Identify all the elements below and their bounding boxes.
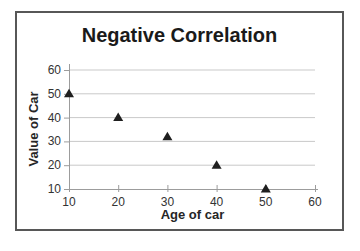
data-point-marker xyxy=(64,89,74,98)
y-tick-label: 30 xyxy=(48,134,62,148)
chart-figure: Negative Correlation Value of Car 102030… xyxy=(0,0,360,251)
y-tick-label: 40 xyxy=(48,111,62,125)
data-point-marker xyxy=(162,132,172,141)
y-tick-label: 10 xyxy=(48,182,62,196)
y-tick-label: 60 xyxy=(48,63,62,77)
x-axis-title: Age of car xyxy=(69,207,316,222)
y-tick-label: 50 xyxy=(48,87,62,101)
data-point-marker xyxy=(212,160,222,169)
data-point-marker xyxy=(113,113,123,122)
data-point-marker xyxy=(261,184,271,193)
y-tick-label: 20 xyxy=(48,158,62,172)
